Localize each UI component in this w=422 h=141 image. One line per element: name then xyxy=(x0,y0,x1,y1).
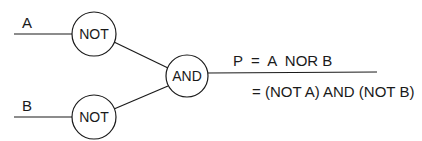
output-expression-nor: P = A NOR B xyxy=(233,52,332,69)
not-gate-b: NOT xyxy=(72,95,116,139)
output-expression-equivalent: = (NOT A) AND (NOT B) xyxy=(252,83,414,100)
wire-not-a-to-and xyxy=(114,42,168,68)
wire-not-b-to-and xyxy=(114,86,168,109)
and-gate-label: AND xyxy=(172,68,202,84)
and-gate: AND xyxy=(166,55,208,97)
input-label-a: A xyxy=(22,14,32,31)
not-gate-a: NOT xyxy=(72,12,116,56)
not-gate-b-label: NOT xyxy=(79,109,109,125)
not-gate-a-label: NOT xyxy=(79,26,109,42)
input-label-b: B xyxy=(22,97,32,114)
output-wire xyxy=(208,72,377,73)
logic-diagram: A B NOT NOT AND P = A NOR B = (NOT A) AN… xyxy=(0,0,422,141)
